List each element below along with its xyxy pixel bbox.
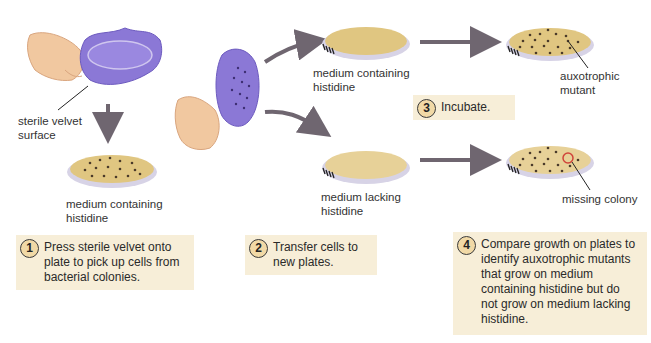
master-plate-label: medium containing histidine: [66, 198, 163, 225]
step-2-text: Transfer cells to new plates.: [273, 240, 358, 269]
incubated-plate-lacking-histidine: [506, 146, 594, 179]
step-3-box: 3 Incubate.: [413, 95, 515, 120]
step-4-badge: 4: [457, 236, 476, 255]
hand-with-velvet-block-icon: [175, 49, 259, 149]
step-4-box: 4 Compare growth on plates to identify a…: [453, 232, 647, 335]
step-2-badge: 2: [249, 239, 268, 258]
missing-colony-label: missing colony: [562, 193, 637, 207]
velvet-pointer-line: [58, 86, 88, 110]
step-1-badge: 1: [20, 239, 39, 258]
step-2-box: 2 Transfer cells to new plates.: [245, 235, 377, 275]
master-plate: [67, 155, 157, 188]
step-3-text: Incubate.: [441, 100, 490, 114]
step-1-text: Press sterile velvet onto plate to pick …: [44, 240, 179, 284]
hand-with-velvet-icon: [28, 28, 162, 84]
plate-lacking-histidine-label: medium lacking histidine: [321, 191, 401, 218]
step-1-box: 1 Press sterile velvet onto plate to pic…: [16, 235, 194, 290]
sterile-velvet-label: sterile velvet surface: [18, 115, 82, 142]
plate-lacking-histidine: [322, 151, 410, 184]
step-4-text: Compare growth on plates to identify aux…: [481, 237, 635, 326]
plate-with-histidine: [322, 27, 410, 60]
incubated-plate-with-histidine: [506, 28, 594, 61]
step-3-badge: 3: [417, 99, 436, 118]
plate-with-histidine-label: medium containing histidine: [313, 67, 410, 94]
auxotrophic-mutant-label: auxotrophic mutant: [560, 70, 619, 97]
